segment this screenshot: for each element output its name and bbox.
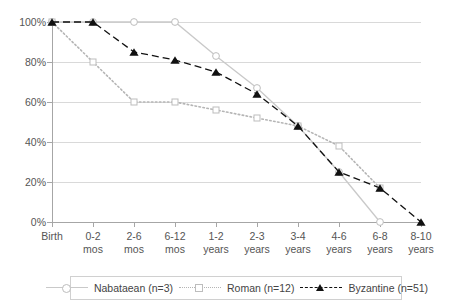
- series-line: [52, 22, 421, 222]
- data-point-marker: [170, 56, 179, 63]
- legend-item[interactable]: Nabataean (n=3): [42, 282, 175, 294]
- data-point-marker: [211, 68, 220, 75]
- chart-legend: Nabataean (n=3)Roman (n=12)Byzantine (n=…: [70, 276, 402, 300]
- legend-label: Nabataean (n=3): [92, 282, 175, 294]
- legend-marker-open-circle-icon: [62, 284, 71, 293]
- data-point-marker: [172, 19, 179, 26]
- legend-marker-open-square-icon: [195, 284, 203, 292]
- legend-swatch: [46, 282, 88, 294]
- legend-swatch: [179, 282, 221, 294]
- legend-label: Roman (n=12): [225, 282, 296, 294]
- data-point-marker: [131, 19, 138, 26]
- series-layer: [0, 0, 468, 308]
- data-point-marker: [213, 53, 220, 60]
- data-point-marker: [90, 59, 96, 65]
- legend-label: Byzantine (n=51): [346, 282, 430, 294]
- legend-swatch: [300, 282, 342, 294]
- chart-container: 100%80%60%40%20%0% Birth0-2mos2-6mos6-12…: [0, 0, 468, 308]
- data-point-marker: [213, 107, 219, 113]
- data-point-marker: [336, 143, 342, 149]
- data-point-marker: [254, 115, 260, 121]
- series-line: [52, 22, 380, 222]
- data-point-marker: [131, 99, 137, 105]
- data-point-marker: [377, 219, 384, 226]
- legend-item[interactable]: Roman (n=12): [175, 282, 296, 294]
- legend-item[interactable]: Byzantine (n=51): [296, 282, 430, 294]
- data-point-marker: [172, 99, 178, 105]
- legend-marker-filled-triangle-icon: [316, 284, 324, 291]
